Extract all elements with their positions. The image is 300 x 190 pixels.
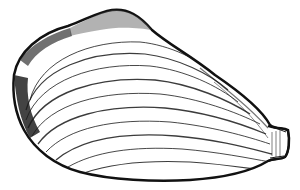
clam-shell-illustration <box>0 0 300 190</box>
shell-drawing <box>0 0 300 190</box>
